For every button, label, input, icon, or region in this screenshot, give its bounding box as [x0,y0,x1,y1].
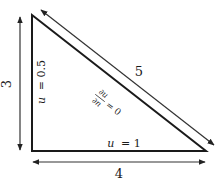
svg-text:u = 0.5: u = 0.5 [35,60,48,104]
triangle-diagram: 3 4 5 u = 0.5 u = 1 ∂u ∂n = 0 [0,0,221,181]
bottom-boundary-condition: u = 1 [107,137,140,150]
hypotenuse-bc-value: = 0 [104,100,123,118]
hypotenuse-boundary-condition: ∂u ∂n = 0 [89,86,126,121]
bottom-bc-value: = 1 [121,137,141,150]
triangle-shape [32,15,206,151]
left-bc-value: = 0.5 [35,60,48,90]
horizontal-length-label: 4 [115,166,123,181]
vertical-length-label: 3 [0,80,14,88]
hypotenuse-dimension-arrow [41,10,214,145]
left-bc-variable: u [35,97,48,104]
bottom-bc-variable: u [107,137,114,150]
hypotenuse-bc-denominator: ∂n [90,96,103,109]
hypotenuse-length-label: 5 [135,64,143,79]
left-boundary-condition: u = 0.5 [35,60,48,104]
